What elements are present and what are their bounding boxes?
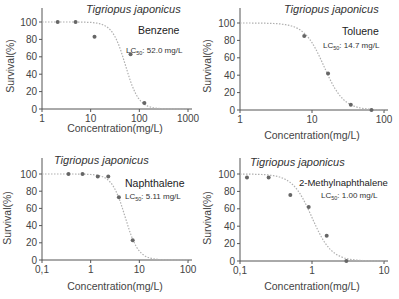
- svg-text:0,1: 0,1: [233, 265, 247, 276]
- svg-text:20: 20: [26, 237, 38, 248]
- svg-text:100: 100: [180, 264, 197, 275]
- svg-text:1: 1: [39, 113, 45, 124]
- svg-text:100: 100: [218, 169, 235, 180]
- svg-text:1: 1: [309, 265, 315, 276]
- svg-text:1000: 1000: [177, 113, 200, 124]
- species-title: Tigriopus japonicus: [86, 3, 181, 15]
- chart-2-methylnaphthalene: Tigriopus japonicus 2-Methylnaphthalene …: [200, 150, 399, 299]
- y-axis-label: Survival(%): [1, 191, 13, 245]
- chemical-label: Benzene: [138, 24, 180, 36]
- x-axis-label: Concentration(mg/L): [264, 280, 360, 292]
- svg-text:40: 40: [26, 69, 38, 80]
- chart-svg: Tigriopus japonicus 2-Methylnaphthalene …: [200, 150, 399, 299]
- svg-text:10: 10: [306, 114, 318, 125]
- svg-text:40: 40: [26, 220, 38, 231]
- y-axis-label: Survival(%): [4, 39, 16, 93]
- lc50-annotation: LC50: 1.00 mg/L: [321, 191, 378, 201]
- svg-text:0,1: 0,1: [35, 264, 49, 275]
- y-axis: [39, 8, 42, 109]
- species-title: Tigriopus japonicus: [250, 156, 345, 168]
- svg-text:80: 80: [26, 34, 38, 45]
- data-points: [56, 20, 147, 105]
- svg-text:1: 1: [88, 264, 94, 275]
- x-axis: [42, 109, 192, 112]
- svg-text:100: 100: [376, 114, 393, 125]
- svg-text:80: 80: [26, 186, 38, 197]
- x-axis: [240, 110, 388, 113]
- svg-text:60: 60: [224, 52, 236, 63]
- svg-text:100: 100: [218, 18, 235, 29]
- svg-text:20: 20: [224, 238, 236, 249]
- svg-text:20: 20: [224, 87, 236, 98]
- species-title: Tigriopus japonicus: [54, 154, 149, 166]
- svg-text:80: 80: [224, 186, 236, 197]
- svg-text:10: 10: [378, 265, 390, 276]
- chart-toluene: Tigriopus japonicus Toluene LC50: 14.7 m…: [200, 0, 399, 150]
- svg-text:60: 60: [26, 51, 38, 62]
- svg-text:0: 0: [229, 105, 235, 116]
- chart-naphthalene: Tigriopus japonicus Naphthalene LC50: 5.…: [0, 150, 200, 299]
- lc50-annotation: LC50: 5.11 mg/L: [125, 192, 181, 202]
- lc50-annotation: LC50: 14.7 mg/L: [323, 41, 380, 51]
- y-axis-label: Survival(%): [201, 39, 213, 93]
- svg-text:60: 60: [26, 203, 38, 214]
- svg-text:40: 40: [224, 70, 236, 81]
- svg-text:0: 0: [31, 104, 37, 115]
- chart-svg: Tigriopus japonicus Naphthalene LC50: 5.…: [0, 150, 200, 299]
- svg-text:10: 10: [134, 264, 146, 275]
- chemical-label: Naphthalene: [125, 177, 185, 189]
- y-axis-label: Survival(%): [201, 191, 213, 245]
- svg-text:20: 20: [26, 86, 38, 97]
- y-axis: [237, 8, 240, 110]
- y-axis: [39, 158, 42, 260]
- chemical-label: Toluene: [342, 25, 379, 37]
- species-title: Tigriopus japonicus: [284, 3, 379, 15]
- y-axis: [237, 158, 240, 261]
- lc50-annotation: LC50: 52.0 mg/L: [126, 46, 183, 56]
- chart-svg: Tigriopus japonicus Toluene LC50: 14.7 m…: [200, 0, 399, 150]
- x-axis: [240, 261, 388, 264]
- x-axis-label: Concentration(mg/L): [264, 129, 360, 141]
- chart-benzene: Tigriopus japonicus Benzene LC50: 52.0 m…: [0, 0, 200, 150]
- svg-text:1: 1: [237, 114, 243, 125]
- chemical-label: 2-Methylnaphthalene: [299, 177, 388, 188]
- x-axis-label: Concentration(mg/L): [67, 280, 163, 292]
- x-axis-label: Concentration(mg/L): [67, 122, 163, 134]
- svg-text:60: 60: [224, 203, 236, 214]
- chart-svg: Tigriopus japonicus Benzene LC50: 52.0 m…: [0, 0, 200, 150]
- svg-text:80: 80: [224, 35, 236, 46]
- svg-text:100: 100: [20, 169, 37, 180]
- svg-text:40: 40: [224, 221, 236, 232]
- svg-text:100: 100: [20, 17, 37, 28]
